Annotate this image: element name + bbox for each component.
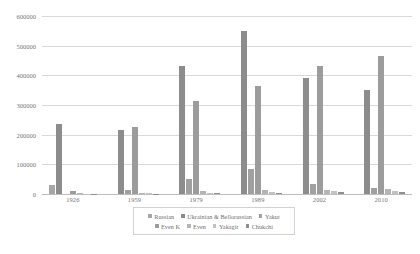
- bar: [186, 179, 192, 194]
- x-axis-tick-label: 1926: [42, 196, 104, 204]
- bar: [200, 191, 206, 194]
- plot-area: [42, 16, 412, 194]
- y-axis-tick-label: 0: [0, 194, 36, 195]
- legend-swatch-icon: [213, 224, 217, 228]
- legend-label: Russian: [154, 213, 174, 220]
- bar: [317, 66, 323, 194]
- bar: [269, 192, 275, 194]
- bar: [324, 190, 330, 194]
- bar: [214, 193, 220, 194]
- bar: [385, 189, 391, 194]
- y-axis-tick-label: 500000: [0, 46, 36, 47]
- bar: [371, 188, 377, 194]
- bar: [146, 193, 152, 194]
- x-axis-tick-label: 1989: [227, 196, 289, 204]
- legend-label: Ukrainian & Bellorussian: [187, 213, 252, 220]
- legend-item[interactable]: Yakagir: [213, 223, 239, 230]
- legend-item[interactable]: Ukrainian & Bellorussian: [181, 213, 252, 220]
- bar: [179, 66, 185, 194]
- x-axis-tick-label: 2002: [289, 196, 351, 204]
- bar-groups: [42, 16, 412, 194]
- bar-group: [350, 16, 412, 194]
- bar: [262, 190, 268, 194]
- x-axis: 192619591979198920022010: [42, 196, 412, 204]
- bar: [56, 124, 62, 194]
- bar-group: [227, 16, 289, 194]
- bar: [310, 184, 316, 194]
- legend-swatch-icon: [181, 214, 185, 218]
- legend-row-1: RussianUkrainian & BellorussianYakut: [138, 211, 290, 221]
- bar: [77, 193, 83, 194]
- chart-legend: RussianUkrainian & BellorussianYakut Eve…: [133, 207, 295, 235]
- bar: [193, 101, 199, 194]
- bar: [338, 192, 344, 194]
- bar: [276, 193, 282, 194]
- y-axis-tick-label: 400000: [0, 75, 36, 76]
- bar-group: [289, 16, 351, 194]
- x-axis-line: [42, 194, 412, 195]
- bar: [364, 90, 370, 194]
- bar: [331, 191, 337, 194]
- x-axis-tick-label: 1979: [165, 196, 227, 204]
- legend-swatch-icon: [187, 224, 191, 228]
- legend-row-2: Even KEvenYakagirChukchi: [138, 221, 290, 231]
- bar: [125, 190, 131, 194]
- bar: [241, 31, 247, 194]
- y-axis-tick-label: 200000: [0, 135, 36, 136]
- bar: [255, 86, 261, 194]
- legend-item[interactable]: Even K: [155, 223, 180, 230]
- bar: [248, 169, 254, 194]
- y-axis-tick-label: 300000: [0, 105, 36, 106]
- bar: [70, 191, 76, 194]
- bar-chart: 0100000200000300000400000500000600000 19…: [0, 0, 420, 254]
- legend-item[interactable]: Yakut: [259, 213, 280, 220]
- bar: [399, 192, 405, 194]
- legend-label: Even K: [161, 223, 180, 230]
- legend-swatch-icon: [246, 224, 250, 228]
- bar: [303, 78, 309, 194]
- y-axis-tick-label: 600000: [0, 16, 36, 17]
- legend-item[interactable]: Even: [187, 223, 206, 230]
- legend-swatch-icon: [148, 214, 152, 218]
- bar: [49, 185, 55, 194]
- x-axis-tick-label: 2010: [350, 196, 412, 204]
- bar-group: [42, 16, 104, 194]
- legend-label: Yakagir: [219, 223, 239, 230]
- bar: [392, 191, 398, 194]
- y-axis-tick-label: 100000: [0, 164, 36, 165]
- bar: [378, 56, 384, 194]
- legend-swatch-icon: [259, 214, 263, 218]
- legend-label: Even: [193, 223, 206, 230]
- bar-group: [104, 16, 166, 194]
- legend-label: Yakut: [265, 213, 280, 220]
- bar: [139, 193, 145, 194]
- legend-item[interactable]: Russian: [148, 213, 174, 220]
- legend-item[interactable]: Chukchi: [246, 223, 273, 230]
- legend-label: Chukchi: [252, 223, 273, 230]
- bar: [132, 127, 138, 194]
- bar-group: [165, 16, 227, 194]
- legend-swatch-icon: [155, 224, 159, 228]
- bar: [207, 193, 213, 194]
- x-axis-tick-label: 1959: [104, 196, 166, 204]
- bar: [118, 130, 124, 194]
